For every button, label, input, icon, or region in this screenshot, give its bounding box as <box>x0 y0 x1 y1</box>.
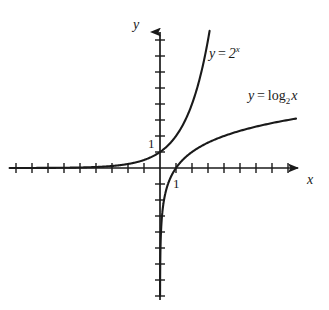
log-label-operator: = <box>257 88 265 103</box>
y-axis-label: y <box>133 17 139 33</box>
y-axis-tick-label-1: 1 <box>148 136 155 152</box>
log-label-argument: x <box>291 88 297 103</box>
curve-label-exponential: y = 2x <box>209 46 240 62</box>
log-label-base: 2 <box>286 96 291 106</box>
x-axis-label: x <box>307 172 313 188</box>
curve-exponential <box>10 31 210 168</box>
exp-label-body: 2 <box>229 46 236 61</box>
curve-label-logarithmic: y = log2 x <box>248 88 298 104</box>
math-figure: y x 1 1 y = 2x y = log2 x <box>0 0 329 310</box>
exp-label-operator: = <box>218 46 226 61</box>
x-axis-tick-label-1: 1 <box>173 176 180 192</box>
log-label-variable: y <box>248 88 254 103</box>
curve-logarithmic <box>160 119 296 296</box>
graph-canvas <box>0 0 329 310</box>
log-label-function: log <box>268 88 286 103</box>
exp-label-exponent: x <box>236 44 240 54</box>
exp-label-variable: y <box>209 46 215 61</box>
